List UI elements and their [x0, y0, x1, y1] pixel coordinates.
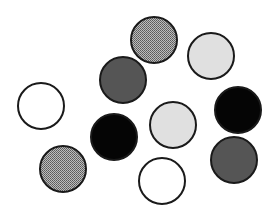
circle-hatched-bottom-left — [40, 146, 86, 192]
circle-black-middle — [91, 114, 137, 160]
circle-dark-gray-right — [211, 137, 257, 183]
circle-black-right — [215, 87, 261, 133]
circle-hatched-top — [131, 17, 177, 63]
circles-diagram — [0, 0, 273, 223]
circle-light-gray-middle — [150, 102, 196, 148]
circle-group — [18, 17, 261, 204]
circle-white-bottom — [139, 158, 185, 204]
circle-white-left — [18, 83, 64, 129]
circle-light-gray-top-right — [188, 33, 234, 79]
circle-dark-gray-upper — [100, 57, 146, 103]
